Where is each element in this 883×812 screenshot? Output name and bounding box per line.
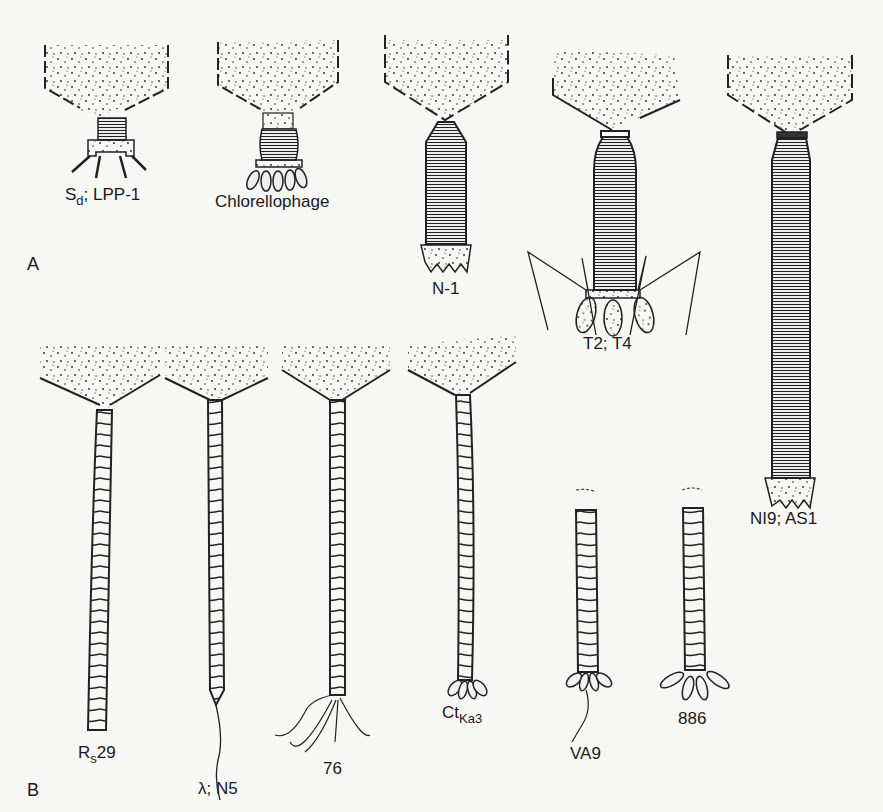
- label-n1: N-1: [432, 280, 459, 297]
- label-886: 886: [678, 710, 706, 727]
- panel-label-b: B: [27, 780, 39, 801]
- phage-morphology-figure: [0, 0, 883, 812]
- label-ni9-as1: NI9; AS1: [750, 510, 817, 527]
- phage-sd-lpp1: [45, 45, 168, 178]
- label-76: 76: [323, 760, 342, 777]
- phage-chlorellophage: [218, 40, 338, 191]
- label-rs29: Rs29: [78, 744, 116, 765]
- phage-76: [275, 345, 390, 752]
- label-t2-t4: T2; T4: [583, 335, 632, 352]
- phage-ct-ka3: [408, 335, 516, 700]
- phage-rs29: [40, 345, 160, 730]
- label-lambda-n5: λ; N5: [198, 780, 238, 797]
- phage-va9: [564, 489, 614, 742]
- phage-ni9-as1: [728, 55, 852, 508]
- label-ct-ka3: CtKa3: [442, 704, 482, 725]
- label-va9: VA9: [570, 745, 601, 762]
- phage-n1: [385, 35, 508, 272]
- label-sd-lpp1: Sd; LPP-1: [65, 186, 140, 207]
- phage-t2-t4: [528, 50, 700, 336]
- phage-lambda-n5: [165, 345, 268, 800]
- phage-886: [658, 488, 731, 701]
- panel-label-a: A: [27, 254, 39, 275]
- label-chlorellophage: Chlorellophage: [215, 193, 329, 210]
